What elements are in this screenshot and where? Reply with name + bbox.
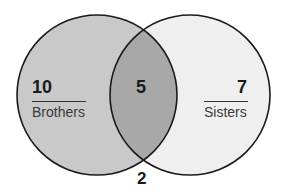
brothers-label: Brothers [32, 104, 85, 120]
venn-diagram [0, 0, 283, 196]
sisters-divider [204, 101, 248, 102]
intersection-count: 5 [136, 77, 146, 98]
outside-count: 2 [137, 169, 146, 189]
sisters-label: Sisters [204, 104, 247, 120]
sisters-only-count: 7 [237, 77, 247, 98]
brothers-only-count: 10 [32, 77, 52, 98]
brothers-divider [32, 101, 86, 102]
